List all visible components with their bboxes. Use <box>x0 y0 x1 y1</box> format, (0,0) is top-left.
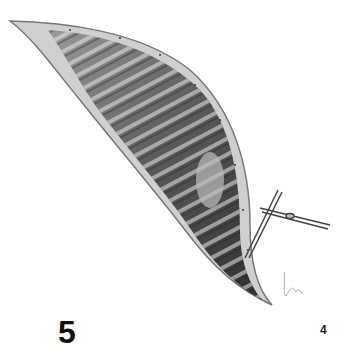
page-number: 4 <box>320 324 327 336</box>
muscle-bulge <box>196 152 224 208</box>
artist-signature <box>284 272 302 296</box>
figure-number: 5 <box>58 316 76 348</box>
forceps-icon <box>245 190 330 258</box>
surgical-illustration <box>0 0 344 359</box>
